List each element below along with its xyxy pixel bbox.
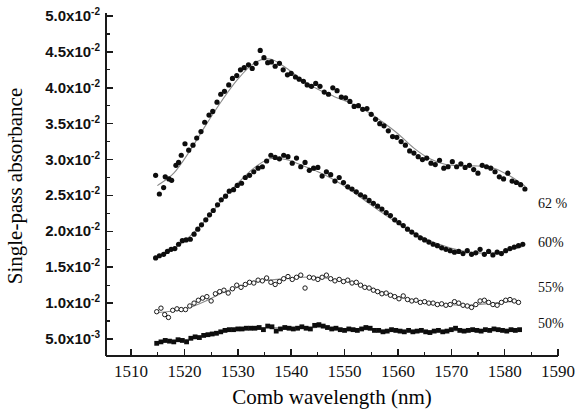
data-point — [474, 302, 478, 306]
data-point — [290, 277, 294, 281]
data-point — [469, 305, 473, 309]
data-point — [278, 327, 283, 332]
data-point — [388, 213, 393, 218]
data-point — [363, 325, 368, 330]
data-point — [230, 287, 234, 291]
data-point — [234, 73, 239, 78]
data-point — [264, 276, 268, 280]
data-point — [518, 182, 523, 187]
data-point — [282, 325, 287, 330]
data-point — [313, 81, 318, 86]
data-point — [397, 297, 401, 301]
data-point — [396, 220, 401, 225]
data-point — [188, 304, 192, 308]
data-point — [315, 165, 320, 170]
data-point — [461, 303, 465, 307]
data-point — [332, 178, 337, 183]
data-point — [349, 186, 354, 191]
data-point — [277, 61, 282, 66]
data-point — [199, 222, 204, 227]
data-point — [509, 327, 514, 332]
data-point — [452, 299, 456, 303]
data-point — [471, 167, 476, 172]
data-point — [184, 339, 189, 344]
data-point — [219, 197, 224, 202]
data-point — [448, 302, 452, 306]
data-point — [257, 325, 262, 330]
data-point — [188, 237, 193, 242]
data-point — [328, 277, 332, 281]
data-point — [179, 153, 184, 158]
data-point — [176, 337, 181, 342]
data-point — [207, 212, 212, 217]
data-point — [440, 329, 445, 334]
data-point — [392, 217, 397, 222]
data-point — [281, 67, 286, 72]
data-point — [239, 181, 244, 186]
data-point — [381, 329, 386, 334]
data-point — [223, 328, 228, 333]
data-point — [341, 279, 345, 283]
data-point — [166, 315, 170, 319]
data-point — [418, 300, 422, 304]
data-point — [334, 88, 339, 93]
data-point — [411, 151, 416, 156]
data-point — [328, 172, 333, 177]
data-point — [436, 328, 441, 333]
series-label-60: 60% — [538, 235, 564, 250]
data-point — [330, 85, 335, 90]
data-point — [465, 248, 470, 253]
data-point — [324, 169, 329, 174]
data-point — [289, 71, 294, 76]
data-point — [486, 249, 491, 254]
data-point — [364, 106, 369, 111]
data-point — [394, 135, 399, 140]
data-point — [326, 92, 331, 97]
x-axis-tick-labels: 151015201530154015501560157015801590 — [114, 362, 575, 381]
absorbance-scatter-chart: 5.0x10-31.0x10-21.5x10-22.0x10-22.5x10-2… — [0, 0, 583, 415]
data-point — [211, 208, 216, 213]
data-point — [453, 326, 458, 331]
data-point — [235, 327, 240, 332]
x-tick-label-8: 1590 — [541, 362, 575, 381]
data-point — [190, 143, 195, 148]
data-point — [161, 185, 166, 190]
data-point — [457, 328, 462, 333]
data-point — [172, 246, 177, 251]
data-point — [435, 302, 439, 306]
data-point — [375, 204, 380, 209]
data-point — [393, 328, 398, 333]
data-point — [381, 123, 386, 128]
data-point — [444, 303, 448, 307]
data-point — [240, 327, 245, 332]
data-point — [372, 328, 377, 333]
data-point — [522, 186, 527, 191]
data-point — [415, 329, 420, 334]
data-point — [409, 229, 414, 234]
data-point — [405, 297, 409, 301]
data-point — [458, 161, 463, 166]
data-point — [445, 329, 450, 334]
data-point — [405, 227, 410, 232]
data-point — [308, 327, 313, 332]
data-point — [242, 65, 247, 70]
data-point — [205, 294, 209, 298]
data-point — [423, 329, 428, 334]
data-point — [410, 299, 414, 303]
data-point — [410, 329, 415, 334]
data-point — [366, 198, 371, 203]
data-point — [465, 304, 469, 308]
data-point — [226, 82, 231, 87]
x-axis-title: Comb wavelength (nm) — [232, 385, 431, 409]
data-point — [475, 171, 480, 176]
data-point — [252, 326, 257, 331]
data-point — [393, 294, 397, 298]
data-point — [153, 173, 158, 178]
data-point — [376, 328, 381, 333]
data-point — [196, 298, 200, 302]
data-point — [197, 335, 202, 340]
data-point — [251, 169, 256, 174]
data-point — [483, 327, 488, 332]
data-point — [269, 280, 273, 284]
data-point — [351, 327, 356, 332]
